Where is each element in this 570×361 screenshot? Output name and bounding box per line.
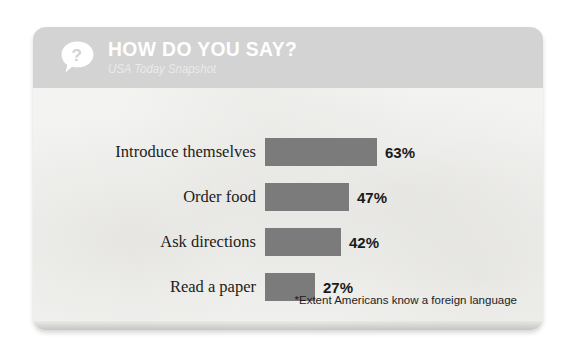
table-row: Introduce themselves 63% (33, 138, 543, 166)
header-text-block: HOW DO YOU SAY? USA Today Snapshot (108, 38, 314, 77)
question-speech-bubble-icon: ? (54, 34, 100, 80)
bar-value-label: 63% (385, 144, 415, 161)
bar-fill (265, 228, 341, 256)
card-bottom-shadow (33, 321, 543, 330)
bar-track: 47% (265, 183, 387, 211)
table-row: Order food 47% (33, 183, 543, 211)
bar-category-label: Read a paper (33, 277, 265, 297)
bar-category-label: Order food (33, 187, 265, 207)
bar-value-label: 42% (349, 234, 379, 251)
bar-value-label: 27% (323, 279, 353, 296)
page-subtitle: USA Today Snapshot (108, 62, 303, 77)
chart-footnote: *Extent Americans know a foreign languag… (295, 294, 517, 306)
card-header: ? HOW DO YOU SAY? USA Today Snapshot (33, 27, 543, 88)
bar-track: 63% (265, 138, 415, 166)
svg-text:?: ? (71, 45, 81, 64)
bar-track: 42% (265, 228, 379, 256)
page-title: HOW DO YOU SAY? (108, 38, 297, 60)
bar-fill (265, 183, 349, 211)
table-row: Ask directions 42% (33, 228, 543, 256)
bar-category-label: Introduce themselves (33, 142, 265, 162)
bar-fill (265, 138, 377, 166)
usa-today-snapshot-card: ? HOW DO YOU SAY? USA Today Snapshot Int… (33, 27, 543, 330)
bar-category-label: Ask directions (33, 232, 265, 252)
bar-value-label: 47% (357, 189, 387, 206)
